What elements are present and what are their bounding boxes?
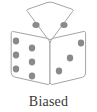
pip — [29, 73, 35, 80]
die-top-face — [27, 2, 74, 40]
pip — [29, 45, 35, 52]
top-face-outline — [27, 2, 74, 40]
pip — [29, 59, 35, 66]
die-left-face — [11, 31, 50, 84]
figure-caption: Biased — [0, 93, 97, 110]
die-right-face — [50, 31, 86, 84]
pip — [32, 22, 39, 28]
die-illustration — [0, 0, 97, 95]
pip — [60, 22, 67, 28]
pip — [56, 68, 62, 75]
biased-die-figure: Biased — [0, 0, 97, 112]
pip — [78, 40, 84, 47]
pip — [13, 52, 19, 59]
pip — [13, 38, 19, 45]
pip — [13, 66, 19, 73]
pip — [67, 55, 73, 62]
